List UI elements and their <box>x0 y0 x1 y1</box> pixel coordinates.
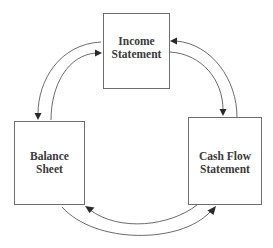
balance-sheet-label-line1: Balance <box>15 150 84 163</box>
arrow-balance-to-cashflow <box>62 206 216 235</box>
arrowhead-down-icon <box>35 113 42 120</box>
arrow-balance-to-income <box>51 50 102 121</box>
cash-flow-statement-label-line2: Statement <box>189 163 261 176</box>
income-statement-box: Income Statement <box>103 13 170 89</box>
cash-flow-statement-label-line1: Cash Flow <box>189 150 261 163</box>
income-statement-label: Income Statement <box>104 35 169 60</box>
balance-sheet-label-line2: Sheet <box>15 163 84 176</box>
arrow-cashflow-to-income <box>170 38 237 118</box>
balance-sheet-label: Balance Sheet <box>15 150 84 175</box>
arrowhead-left-icon <box>170 38 177 45</box>
arrowhead-down-icon <box>220 109 227 116</box>
income-statement-label-line1: Income <box>104 35 169 48</box>
cash-flow-statement-box: Cash Flow Statement <box>188 117 262 205</box>
income-statement-label-line2: Statement <box>104 48 169 61</box>
arrow-cashflow-to-balance <box>85 205 197 224</box>
cash-flow-statement-label: Cash Flow Statement <box>189 150 261 175</box>
balance-sheet-box: Balance Sheet <box>14 121 85 205</box>
arrow-income-to-cashflow <box>170 52 227 116</box>
arrowhead-right-icon <box>95 50 102 57</box>
